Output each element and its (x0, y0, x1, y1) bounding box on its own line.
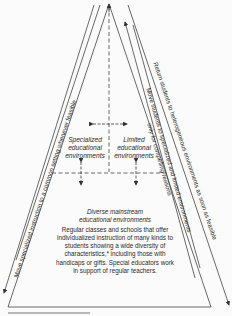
label-line: environments (62, 152, 108, 160)
specialized-environments-label: Specialized educational environments (62, 136, 108, 161)
mainstream-body-line: individualized instruction of many kinds… (40, 234, 190, 242)
mainstream-body-line: Regular classes and schools that offer (40, 226, 190, 234)
mainstream-body-line: students showing a wide diversity of (40, 242, 190, 250)
mainstream-title: Diverse mainstream (40, 208, 190, 216)
mainstream-body-line: characteristics,* including those with (40, 250, 190, 258)
mainstream-environments-box: Diverse mainstream educational environme… (40, 208, 190, 275)
mainstream-body-line: handicaps or gifts. Special educators wo… (40, 259, 190, 267)
mainstream-body-line: in support of regular teachers. (40, 267, 190, 275)
label-line: environments (111, 152, 157, 160)
label-line: educational (111, 144, 157, 152)
label-line: educational (62, 144, 108, 152)
label-line: Specialized (62, 136, 108, 144)
mainstream-title: educational environments (40, 216, 190, 224)
